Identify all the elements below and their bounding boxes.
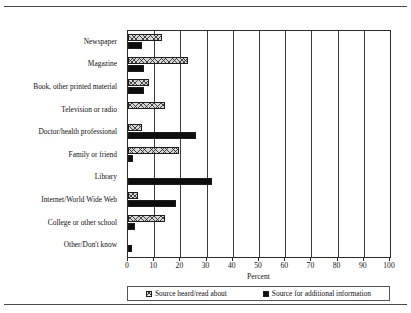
bar-heard-read xyxy=(128,215,165,222)
axis-tick-label: 80 xyxy=(324,261,350,271)
bar-chart-figure: NewspaperMagazineBook, other printed mat… xyxy=(0,10,411,300)
axis-tick-label: 60 xyxy=(271,261,297,271)
category-label: Library xyxy=(0,172,117,181)
bar-group xyxy=(128,144,390,167)
category-label: Internet/World Wide Web xyxy=(0,195,117,204)
axis-tick-label: 90 xyxy=(350,261,376,271)
axis-tick-label: 70 xyxy=(297,261,323,271)
solid-square-icon xyxy=(263,291,269,297)
bar-additional-info xyxy=(128,132,196,139)
axis-tick-label: 40 xyxy=(219,261,245,271)
bar-additional-info xyxy=(128,245,132,252)
bar-group xyxy=(128,76,390,99)
axis-tick-label: 30 xyxy=(193,261,219,271)
axis-tick-label: 100 xyxy=(376,261,402,271)
legend-item: Source heard/read about xyxy=(146,289,227,298)
bar-additional-info xyxy=(128,178,212,185)
x-axis-title: Percent xyxy=(127,272,390,281)
bar-group xyxy=(128,31,390,54)
legend-item: Source for additional information xyxy=(263,289,371,298)
figure-page: NewspaperMagazineBook, other printed mat… xyxy=(0,0,411,313)
hatched-square-icon xyxy=(146,291,152,297)
category-label: College or other school xyxy=(0,218,117,227)
bar-group xyxy=(128,212,390,235)
bar-group xyxy=(128,99,390,122)
plot-area xyxy=(127,30,391,258)
legend-label: Source heard/read about xyxy=(155,289,227,298)
category-label: Other/Don't know xyxy=(0,240,117,249)
bar-group xyxy=(128,54,390,77)
axis-tick-label: 0 xyxy=(114,261,140,271)
value-axis: 0102030405060708090100 xyxy=(127,257,390,273)
legend-label: Source for additional information xyxy=(272,289,371,298)
bar-heard-read xyxy=(128,79,149,86)
page-rule-bottom xyxy=(4,304,407,305)
category-label: Book, other printed material xyxy=(0,82,117,91)
bar-additional-info xyxy=(128,42,142,49)
bar-group xyxy=(128,121,390,144)
chart-legend: Source heard/read aboutSource for additi… xyxy=(127,286,390,301)
category-label: Doctor/health professional xyxy=(0,127,117,136)
category-label: Magazine xyxy=(0,59,117,68)
category-label: Family or friend xyxy=(0,150,117,159)
bar-additional-info xyxy=(128,65,144,72)
bar-heard-read xyxy=(128,57,188,64)
bar-additional-info xyxy=(128,223,135,230)
bar-group xyxy=(128,234,390,257)
axis-tick-label: 20 xyxy=(166,261,192,271)
bar-heard-read xyxy=(128,34,162,41)
axis-tick-label: 50 xyxy=(245,261,271,271)
category-label: Television or radio xyxy=(0,105,117,114)
bar-additional-info xyxy=(128,87,144,94)
bar-additional-info xyxy=(128,155,133,162)
bar-heard-read xyxy=(128,147,179,154)
bar-additional-info xyxy=(128,200,176,207)
bar-group xyxy=(128,189,390,212)
bar-heard-read xyxy=(128,192,138,199)
bar-heard-read xyxy=(128,102,165,109)
category-label: Newspaper xyxy=(0,37,117,46)
bar-heard-read xyxy=(128,124,142,131)
page-rule-top xyxy=(4,6,407,7)
bar-group xyxy=(128,167,390,190)
category-axis-labels: NewspaperMagazineBook, other printed mat… xyxy=(0,30,121,256)
axis-tick-label: 10 xyxy=(140,261,166,271)
